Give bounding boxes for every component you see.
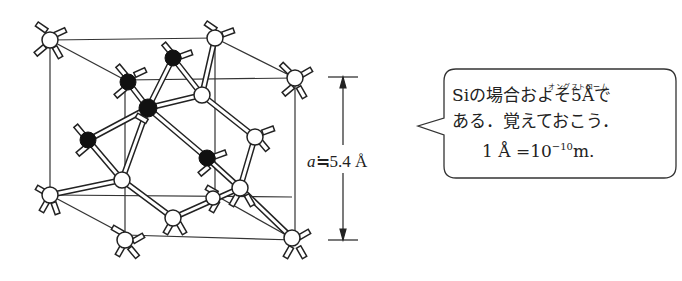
callout-line-2: ある．覚えておこう．	[452, 108, 677, 134]
lattice-value: 5.4 Å	[330, 152, 368, 171]
lattice-symbol: a	[307, 152, 316, 171]
callout-text: オングストローム Siの場合およそ5Åで ある．覚えておこう． 1 Å =10−…	[452, 82, 677, 164]
approx-sign: ≒	[316, 152, 330, 171]
angstrom-ruby: オングストローム	[548, 74, 608, 100]
lattice-constant-label: a≒5.4 Å	[307, 150, 367, 173]
callout-line-3: 1 Å =10−10m.	[452, 134, 677, 164]
